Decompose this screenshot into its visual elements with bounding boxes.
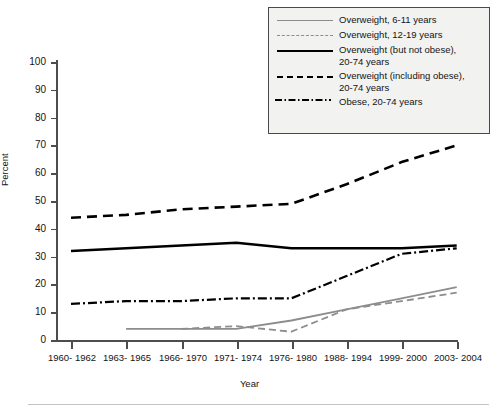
- y-tick-label: 40: [20, 224, 46, 234]
- legend-label: Overweight (but not obese), 20-74 years: [339, 44, 456, 68]
- legend-swatch-black-dashdot-icon: [275, 96, 335, 109]
- x-tick: [292, 342, 294, 349]
- x-tick-label: 1976- 1980: [265, 352, 321, 364]
- x-tick-label: 1971- 1974: [210, 352, 266, 364]
- legend-swatch-gray-solid-icon: [275, 14, 335, 27]
- x-tick-label: 1966- 1970: [155, 352, 211, 364]
- series-line-obese: [71, 248, 457, 304]
- x-tick: [402, 342, 404, 349]
- x-tick-label: 1999- 2000: [375, 352, 431, 364]
- x-axis-line: [56, 340, 458, 342]
- y-tick-label: 30: [20, 252, 46, 262]
- series-line-overweight-6-11: [126, 287, 457, 329]
- chart-figure: Overweight, 6-11 years Overweight, 12-19…: [0, 0, 499, 411]
- series-line-overweight-including-obese: [71, 145, 457, 217]
- legend-item-overweight-not-obese: Overweight (but not obese), 20-74 years: [275, 44, 483, 68]
- y-tick-label: 0: [20, 335, 46, 345]
- legend-label: Overweight, 12-19 years: [339, 29, 443, 41]
- x-tick: [237, 342, 239, 349]
- y-axis-title: Percent: [0, 153, 10, 186]
- legend-label: Obese, 20-74 years: [339, 96, 422, 108]
- legend-item-overweight-including-obese: Overweight (including obese), 20-74 year…: [275, 70, 483, 94]
- x-tick-label: 1960- 1962: [44, 352, 100, 364]
- chart-legend: Overweight, 6-11 years Overweight, 12-19…: [268, 7, 490, 134]
- legend-swatch-gray-dashed-icon: [275, 29, 335, 42]
- series-line-overweight-12-19: [181, 293, 457, 332]
- x-tick: [182, 342, 184, 349]
- x-tick: [126, 342, 128, 349]
- footer-divider: [28, 404, 489, 405]
- legend-swatch-black-dashed-icon: [275, 70, 335, 83]
- dash-dot-line-icon: [275, 96, 331, 104]
- series-line-overweight-not-obese: [71, 243, 457, 251]
- y-tick-label: 80: [20, 113, 46, 123]
- y-tick-label: 50: [20, 196, 46, 206]
- y-tick-label: 90: [20, 85, 46, 95]
- y-axis-ticks: 100 90 80 70 60 50 40 30 20 10 0: [0, 0, 57, 411]
- legend-swatch-black-solid-icon: [275, 44, 335, 57]
- x-tick-label: 2003- 2004: [430, 352, 486, 364]
- x-tick-label: 1963- 1965: [99, 352, 155, 364]
- y-tick-label: 100: [20, 57, 46, 67]
- x-tick: [347, 342, 349, 349]
- x-axis-title: Year: [0, 378, 499, 389]
- x-tick-label: 1988- 1994: [320, 352, 376, 364]
- y-tick-label: 10: [20, 307, 46, 317]
- legend-item-overweight-12-19: Overweight, 12-19 years: [275, 29, 483, 42]
- x-tick: [457, 342, 459, 349]
- x-tick: [71, 342, 73, 349]
- legend-label: Overweight, 6-11 years: [339, 14, 437, 26]
- y-tick-label: 20: [20, 279, 46, 289]
- y-tick-label: 70: [20, 140, 46, 150]
- legend-label: Overweight (including obese), 20-74 year…: [339, 70, 465, 94]
- y-tick-label: 60: [20, 168, 46, 178]
- legend-item-obese: Obese, 20-74 years: [275, 96, 483, 109]
- legend-item-overweight-6-11: Overweight, 6-11 years: [275, 14, 483, 27]
